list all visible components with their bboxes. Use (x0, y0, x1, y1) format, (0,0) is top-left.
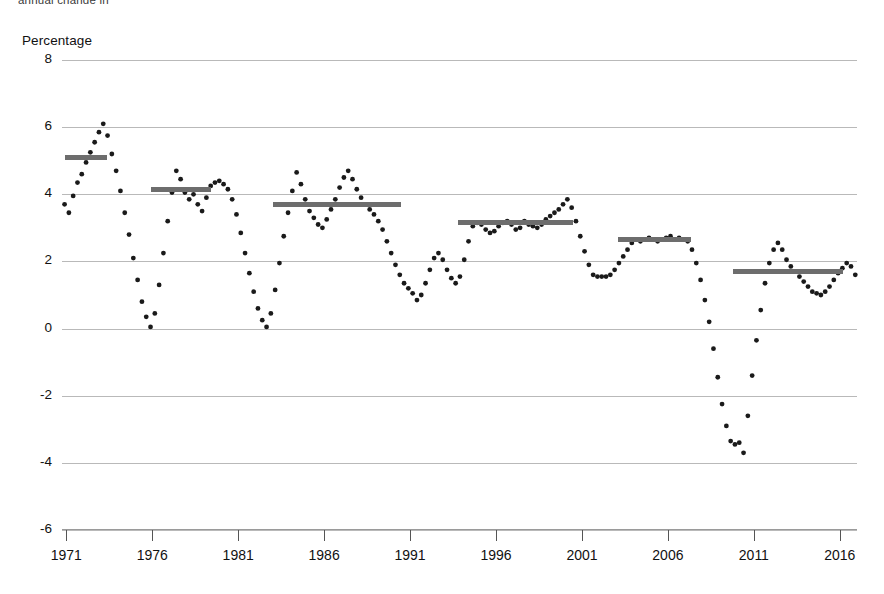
data-point (251, 289, 256, 294)
data-point (264, 324, 269, 329)
data-point (806, 284, 811, 289)
data-point (432, 256, 437, 261)
data-point (720, 402, 725, 407)
data-point (814, 291, 819, 296)
chart-figure: annual change in Percentage 86420-2-4-6 … (0, 0, 884, 594)
y-tick-label: 0 (22, 320, 52, 335)
x-axis-tick (238, 530, 239, 541)
data-point (101, 121, 106, 126)
data-point (458, 274, 463, 279)
data-point (221, 182, 226, 187)
average-bar (733, 269, 843, 274)
x-axis-tick (754, 530, 755, 541)
data-point (574, 219, 579, 224)
average-bar (618, 237, 691, 242)
data-point (711, 346, 716, 351)
data-point (591, 272, 596, 277)
data-point (62, 202, 67, 207)
data-point (733, 442, 738, 447)
data-point (204, 195, 209, 200)
data-point (217, 178, 222, 183)
data-point (122, 210, 127, 215)
data-point (316, 222, 321, 227)
data-point (513, 227, 518, 232)
data-point (174, 168, 179, 173)
x-axis-tick (496, 530, 497, 541)
data-point (213, 180, 218, 185)
data-point (582, 249, 587, 254)
data-point (393, 262, 398, 267)
data-point (745, 413, 750, 418)
data-point (372, 212, 377, 217)
data-point (694, 261, 699, 266)
data-point (561, 202, 566, 207)
x-axis-tick (152, 530, 153, 541)
data-point (294, 170, 299, 175)
data-point (342, 175, 347, 180)
data-point (853, 272, 858, 277)
y-tick-label: 8 (22, 51, 52, 66)
data-point (376, 219, 381, 224)
data-point (191, 192, 196, 197)
data-point (161, 251, 166, 256)
data-point (311, 215, 316, 220)
data-point (801, 279, 806, 284)
data-point (599, 274, 604, 279)
data-point (737, 440, 742, 445)
x-tick-label: 1981 (223, 547, 254, 563)
data-point (617, 261, 622, 266)
average-bar (151, 187, 210, 192)
average-bar (458, 220, 573, 225)
x-axis-tick (668, 530, 669, 541)
x-tick-label: 1991 (395, 547, 426, 563)
data-point (776, 241, 781, 246)
data-point (608, 272, 613, 277)
x-axis-tick (66, 530, 67, 541)
data-point (595, 274, 600, 279)
data-point (402, 281, 407, 286)
data-point (247, 271, 252, 276)
data-point (350, 177, 355, 182)
data-point (144, 314, 149, 319)
data-point (831, 277, 836, 282)
data-point (118, 189, 123, 194)
x-axis-line (62, 529, 857, 530)
x-axis-tick (410, 530, 411, 541)
data-point (307, 209, 312, 214)
data-point (810, 289, 815, 294)
data-point (453, 281, 458, 286)
data-point (702, 298, 707, 303)
data-point (565, 197, 570, 202)
y-axis-tick-labels: 86420-2-4-6 (20, 60, 52, 530)
data-point (724, 424, 729, 429)
data-point (320, 225, 325, 230)
data-point (140, 299, 145, 304)
data-point (406, 286, 411, 291)
x-tick-label: 1971 (51, 547, 82, 563)
data-point (299, 182, 304, 187)
x-tick-label: 1986 (309, 547, 340, 563)
data-point (612, 267, 617, 272)
data-point (337, 185, 342, 190)
data-point (243, 251, 248, 256)
data-point (548, 214, 553, 219)
data-point (389, 251, 394, 256)
data-point (260, 318, 265, 323)
data-point (131, 256, 136, 261)
data-point (569, 205, 574, 210)
data-point (556, 207, 561, 212)
data-point (367, 207, 372, 212)
data-point (230, 197, 235, 202)
data-point (256, 306, 261, 311)
data-point (767, 261, 772, 266)
data-point (384, 239, 389, 244)
data-point (758, 308, 763, 313)
data-point (436, 251, 441, 256)
data-point (286, 210, 291, 215)
x-tick-label: 1976 (137, 547, 168, 563)
data-point (715, 375, 720, 380)
data-point (346, 168, 351, 173)
y-tick-label: -4 (22, 454, 52, 469)
data-point (518, 225, 523, 230)
data-point (488, 230, 493, 235)
